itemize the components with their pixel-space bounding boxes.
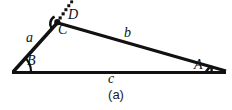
figure-caption: (a) (0, 88, 232, 101)
vertex-label-b: B (27, 54, 36, 68)
geometry-figure: a b c B C A D (a) (0, 0, 232, 110)
extension-label-d: D (68, 8, 78, 22)
side-label-c: c (108, 72, 114, 86)
vertex-label-a: A (194, 58, 203, 72)
side-label-a: a (26, 31, 33, 45)
vertex-label-c: C (58, 23, 67, 37)
side-label-b: b (124, 26, 131, 40)
